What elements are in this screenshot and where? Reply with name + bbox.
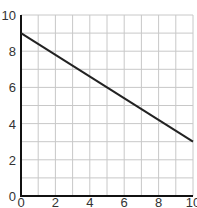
grid-lines bbox=[21, 15, 193, 196]
x-tick-label: 8 bbox=[155, 195, 162, 208]
x-tick-label: 4 bbox=[86, 195, 93, 208]
x-tick-label: 2 bbox=[52, 195, 59, 208]
y-tick-label: 0 bbox=[9, 189, 16, 204]
y-tick-label: 10 bbox=[2, 8, 16, 23]
line-chart: 0246810 0246810 bbox=[0, 0, 197, 208]
y-tick-label: 6 bbox=[9, 80, 16, 95]
y-tick-label: 4 bbox=[9, 117, 16, 132]
y-tick-label: 8 bbox=[9, 44, 16, 59]
x-tick-label: 6 bbox=[121, 195, 128, 208]
x-tick-label: 0 bbox=[17, 195, 24, 208]
x-tick-label: 10 bbox=[186, 195, 197, 208]
y-axis-tick-labels: 0246810 bbox=[2, 8, 16, 204]
y-tick-label: 2 bbox=[9, 153, 16, 168]
